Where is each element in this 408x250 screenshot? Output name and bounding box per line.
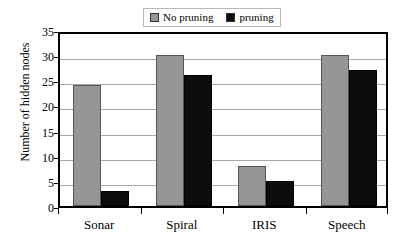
plot-area [58,32,388,208]
bar-chart: No pruning pruning Number of hidden node… [0,0,408,250]
black-swatch-icon [226,13,235,22]
y-axis-tick-label: 35 [34,26,54,38]
y-axis-tick-label: 0 [34,202,54,214]
y-axis-tick-label: 15 [34,127,54,139]
chart-legend: No pruning pruning [143,8,281,27]
legend-entry-pruning: pruning [226,12,273,23]
legend-label-no-pruning: No pruning [163,12,213,23]
y-axis-tick-labels: 05101520253035 [28,32,54,208]
x-axis-tick-labels: SonarSpiralIRISSpeech [58,218,388,236]
x-axis-tick-label-iris: IRIS [252,218,277,232]
x-axis-tick-label-sonar: Sonar [84,218,114,232]
x-axis-tick-mark [306,208,307,214]
bar-spiral-no-pruning [156,55,184,206]
bars [60,34,386,206]
legend-entry-no-pruning: No pruning [150,12,213,23]
x-axis-tick-mark [141,208,142,214]
x-axis-tick-label-spiral: Spiral [166,218,197,232]
y-axis-tick-label: 20 [34,101,54,113]
x-axis-tick-mark [223,208,224,214]
y-axis-tick-label: 25 [34,76,54,88]
bar-iris-no-pruning [238,166,266,206]
x-axis-tick-mark [387,208,388,214]
bar-speech-pruning [349,70,377,206]
y-axis-tick-label: 10 [34,152,54,164]
x-axis-tick-label-speech: Speech [328,218,366,232]
bar-speech-no-pruning [321,55,349,206]
y-axis-tick-label: 30 [34,51,54,63]
legend-label-pruning: pruning [239,12,273,23]
gray-swatch-icon [150,13,159,22]
x-axis-tick-mark [58,208,59,214]
bar-iris-pruning [266,181,294,206]
bar-spiral-pruning [184,75,212,206]
bar-sonar-no-pruning [73,85,101,206]
bar-sonar-pruning [101,191,129,206]
y-axis-tick-label: 5 [34,177,54,189]
x-axis-tick-marks [58,208,388,214]
